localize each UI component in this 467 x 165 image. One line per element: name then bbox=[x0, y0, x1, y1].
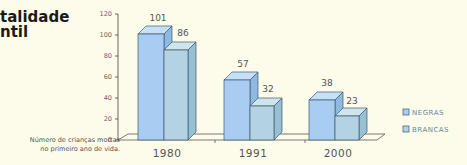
bar-group-2000 bbox=[309, 92, 367, 140]
category-2000: 2000 bbox=[324, 147, 353, 159]
bar-brancas-1980 bbox=[164, 50, 188, 140]
value-negras-2000: 38 bbox=[321, 78, 333, 88]
category-1991: 1991 bbox=[239, 147, 268, 159]
legend-swatch-brancas bbox=[403, 126, 409, 132]
svg-text:20: 20 bbox=[104, 115, 112, 123]
bar-negras-1980 bbox=[138, 34, 164, 140]
svg-text:0: 0 bbox=[108, 136, 112, 144]
category-1980: 1980 bbox=[153, 147, 182, 159]
y-ticks: 0 20 40 60 80 100 120 bbox=[100, 10, 118, 144]
svg-text:40: 40 bbox=[104, 94, 112, 102]
legend-swatch-negras bbox=[403, 109, 409, 115]
value-brancas-1980: 86 bbox=[177, 28, 189, 38]
bar-group-1991 bbox=[224, 72, 282, 140]
svg-text:60: 60 bbox=[104, 73, 112, 81]
bar-group-1980 bbox=[138, 26, 196, 140]
value-brancas-1991: 32 bbox=[262, 84, 273, 94]
svg-text:100: 100 bbox=[100, 31, 112, 39]
value-negras-1991: 57 bbox=[237, 59, 248, 69]
bar-chart: 0 20 40 60 80 100 120 101 86 57 32 bbox=[0, 0, 467, 165]
legend-label-brancas: BRANCAS bbox=[412, 126, 449, 134]
value-brancas-2000: 23 bbox=[346, 96, 357, 106]
svg-text:80: 80 bbox=[104, 52, 112, 60]
legend: NEGRAS BRANCAS bbox=[403, 109, 449, 134]
bar-brancas-1991 bbox=[250, 106, 274, 140]
value-negras-1980: 101 bbox=[149, 13, 166, 23]
legend-label-negras: NEGRAS bbox=[412, 109, 444, 117]
svg-text:120: 120 bbox=[100, 10, 112, 18]
bar-negras-2000 bbox=[309, 100, 335, 140]
bar-brancas-2000 bbox=[335, 116, 359, 140]
bar-negras-1991 bbox=[224, 80, 250, 140]
